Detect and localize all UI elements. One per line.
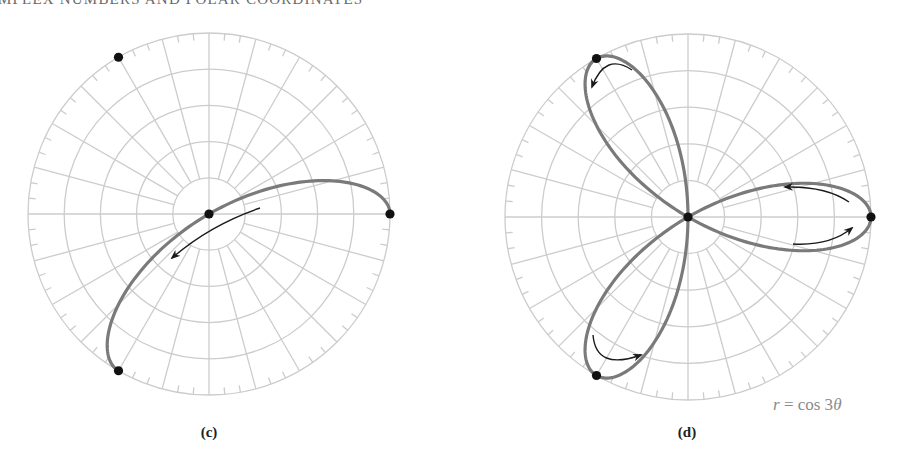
direction-arrow-icon — [592, 64, 632, 87]
point-marker — [592, 54, 601, 63]
point-marker — [592, 371, 601, 380]
point-marker — [683, 212, 692, 221]
equation-body: = cos 3 — [780, 395, 834, 414]
point-marker — [866, 212, 875, 221]
equation-variable-r: r — [773, 395, 780, 414]
direction-arrow-icon — [793, 228, 852, 244]
polar-plot-d — [0, 0, 897, 464]
equation-variable-theta: θ — [833, 395, 841, 414]
figure-label-d: (d) — [678, 424, 696, 441]
equation-label: r = cos 3θ — [773, 395, 841, 415]
